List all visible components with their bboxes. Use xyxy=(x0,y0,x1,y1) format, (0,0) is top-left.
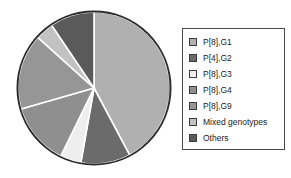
legend-swatch-icon xyxy=(189,54,197,62)
legend-item-label: Others xyxy=(203,134,229,143)
legend-item-label: P[8],G1 xyxy=(203,38,232,47)
legend-swatch-icon xyxy=(189,102,197,110)
legend-item-label: Mixed genotypes xyxy=(203,118,267,127)
legend-item-p8-g4[interactable]: P[8],G4 xyxy=(189,82,284,98)
legend-swatch-icon xyxy=(189,70,197,78)
legend-item-p8-g3[interactable]: P[8],G3 xyxy=(189,66,284,82)
legend-item-p8-g9[interactable]: P[8],G9 xyxy=(189,98,284,114)
legend-swatch-icon xyxy=(189,134,197,142)
legend-swatch-icon xyxy=(189,38,197,46)
legend-item-label: P[8],G9 xyxy=(203,102,232,111)
legend-item-p8-g1[interactable]: P[8],G1 xyxy=(189,34,284,50)
pie-chart-svg xyxy=(16,10,172,166)
legend-item-label: P[4],G2 xyxy=(203,54,232,63)
legend-swatch-icon xyxy=(189,118,197,126)
legend-item-others[interactable]: Others xyxy=(189,130,284,146)
chart-legend: P[8],G1 P[4],G2 P[8],G3 P[8],G4 P[8],G9 … xyxy=(182,28,285,150)
legend-item-label: P[8],G3 xyxy=(203,70,232,79)
pie-chart-figure: P[8],G1 P[4],G2 P[8],G3 P[8],G4 P[8],G9 … xyxy=(0,0,291,178)
pie-chart-plot-area xyxy=(16,10,172,166)
legend-swatch-icon xyxy=(189,86,197,94)
pie-slice-group xyxy=(18,12,170,164)
legend-item-mixed-genotypes[interactable]: Mixed genotypes xyxy=(189,114,284,130)
legend-item-label: P[8],G4 xyxy=(203,86,232,95)
legend-item-p4-g2[interactable]: P[4],G2 xyxy=(189,50,284,66)
